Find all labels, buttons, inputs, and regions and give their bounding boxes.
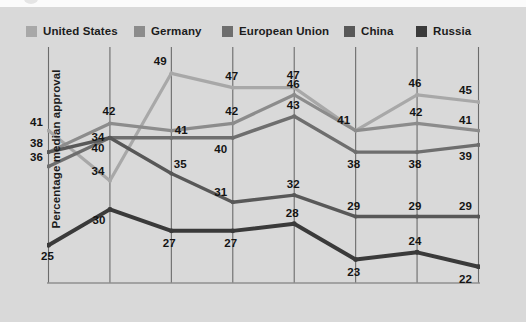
data-point <box>415 250 420 255</box>
value-label: 39 <box>459 150 472 162</box>
data-point <box>415 214 419 218</box>
legend-item-european-union[interactable]: European Union <box>222 22 329 40</box>
value-label: 42 <box>102 105 115 117</box>
value-label: 27 <box>224 237 237 249</box>
value-label: 29 <box>459 200 472 212</box>
data-point <box>292 221 297 226</box>
legend-label: China <box>361 25 393 37</box>
legend-label: Russia <box>433 25 471 37</box>
legend-label: Germany <box>151 25 202 37</box>
series-line-germany <box>49 95 479 152</box>
value-label: 46 <box>287 78 300 90</box>
data-point <box>231 86 235 90</box>
value-label: 35 <box>174 158 187 170</box>
value-label: 36 <box>30 151 43 163</box>
value-label: 23 <box>347 266 360 278</box>
value-label: 38 <box>409 158 422 170</box>
legend-label: European Union <box>239 25 329 37</box>
legend-item-china[interactable]: China <box>344 22 393 40</box>
value-label: 42 <box>225 105 238 117</box>
value-label: 49 <box>154 55 167 67</box>
value-label: 41 <box>337 114 350 126</box>
value-label: 30 <box>92 214 105 226</box>
legend-swatch-icon <box>26 26 37 37</box>
legend-swatch-icon <box>134 26 145 37</box>
data-point <box>292 193 296 197</box>
value-label: 25 <box>41 250 54 262</box>
value-label: 24 <box>409 235 422 247</box>
legend-swatch-icon <box>222 26 233 37</box>
legend-label: United States <box>43 25 118 37</box>
data-point <box>231 121 235 125</box>
value-label: 40 <box>91 142 104 154</box>
data-point <box>169 71 173 75</box>
value-label: 29 <box>409 200 422 212</box>
data-point <box>231 200 235 204</box>
legend-swatch-icon <box>344 26 355 37</box>
value-label: 43 <box>287 99 300 111</box>
value-label: 22 <box>459 273 472 285</box>
data-point <box>230 228 235 233</box>
value-label: 40 <box>214 143 227 155</box>
data-point <box>354 129 358 133</box>
value-label: 31 <box>214 186 227 198</box>
value-label: 29 <box>347 200 360 212</box>
data-point <box>292 114 296 118</box>
legend-item-russia[interactable]: Russia <box>416 22 471 40</box>
data-point <box>108 136 112 140</box>
value-label: 41 <box>30 116 43 128</box>
chart-root: United StatesGermanyEuropean UnionChinaR… <box>0 0 526 332</box>
data-point <box>415 150 419 154</box>
value-label: 42 <box>410 106 423 118</box>
legend-item-united-states[interactable]: United States <box>26 22 118 40</box>
chart-legend: United StatesGermanyEuropean UnionChinaR… <box>0 22 526 40</box>
data-point <box>415 121 419 125</box>
data-point <box>169 171 173 175</box>
data-point <box>108 179 112 183</box>
value-label: 46 <box>409 77 422 89</box>
value-label: 45 <box>459 84 472 96</box>
data-point <box>353 257 358 262</box>
data-point <box>292 93 296 97</box>
value-label: 38 <box>347 158 360 170</box>
value-label: 32 <box>287 178 300 190</box>
bottom-margin-strip <box>0 322 526 332</box>
legend-item-germany[interactable]: Germany <box>134 22 202 40</box>
plot-area: Percentage median approval 2007200820092… <box>47 47 480 297</box>
value-label: 34 <box>91 131 104 143</box>
value-label: 28 <box>286 207 299 219</box>
data-point <box>231 136 235 140</box>
data-point <box>108 121 112 125</box>
value-label: 27 <box>163 237 176 249</box>
y-axis-title: Percentage median approval <box>50 44 62 254</box>
top-margin-strip <box>0 0 526 7</box>
value-label: 41 <box>175 124 188 136</box>
data-point <box>415 93 419 97</box>
value-label: 41 <box>459 114 472 126</box>
data-point <box>169 129 173 133</box>
data-point <box>354 214 358 218</box>
data-point <box>169 228 174 233</box>
data-point <box>169 136 173 140</box>
legend-swatch-icon <box>416 26 427 37</box>
value-label: 34 <box>91 165 104 177</box>
value-label: 38 <box>30 137 43 149</box>
value-label: 47 <box>225 70 238 82</box>
data-point <box>107 207 112 212</box>
data-point <box>354 150 358 154</box>
